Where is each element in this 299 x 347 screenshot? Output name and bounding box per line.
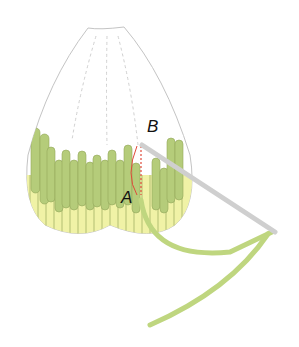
label-a: A [121,188,132,208]
embroidery-diagram [0,0,299,347]
label-b: B [147,117,158,137]
